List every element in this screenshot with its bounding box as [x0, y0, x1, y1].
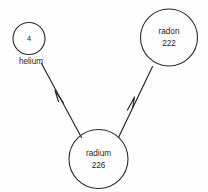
arrow-head-radon-icon [128, 97, 135, 110]
radon-name: radon [159, 27, 180, 36]
radium-name: radium [86, 149, 111, 158]
decay-line-radon [119, 67, 153, 138]
node-helium[interactable]: 4 [13, 23, 45, 55]
arrow-head-helium-icon [55, 91, 64, 104]
radium-circle-icon [69, 130, 128, 189]
diagram-canvas: 4 helium radon 222 radium 226 [0, 0, 208, 192]
helium-mass-number: 4 [27, 34, 31, 43]
node-radium[interactable]: radium 226 [69, 130, 128, 189]
node-radon[interactable]: radon 222 [141, 9, 198, 66]
radon-mass-number: 222 [162, 39, 176, 48]
edge-radium-to-helium [42, 64, 82, 138]
edge-radium-to-radon [119, 67, 153, 138]
decay-diagram: 4 helium radon 222 radium 226 [0, 0, 208, 192]
radon-circle-icon [141, 9, 198, 66]
radium-mass-number: 226 [92, 161, 106, 170]
helium-label: helium [19, 57, 43, 66]
